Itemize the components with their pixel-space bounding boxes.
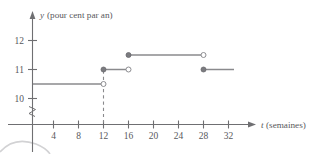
page-edge-artifact bbox=[0, 141, 50, 154]
x-axis-title-variable: t bbox=[261, 120, 264, 130]
closed-endpoint-t16-y11_5 bbox=[126, 53, 131, 58]
y-tick-label-10: 10 bbox=[15, 94, 25, 104]
closed-endpoint-t12-y11 bbox=[101, 67, 106, 72]
y-tick-label-11: 11 bbox=[15, 65, 24, 75]
open-endpoint-t16-y11 bbox=[126, 67, 131, 72]
x-tick-label-16: 16 bbox=[124, 131, 134, 141]
x-axis-title-unit: (semaines) bbox=[266, 120, 306, 130]
y-axis-break-icon bbox=[29, 107, 36, 117]
open-endpoint-t28-y11_5 bbox=[201, 53, 206, 58]
y-axis-arrowhead bbox=[30, 11, 36, 19]
x-tick-label-32: 32 bbox=[224, 131, 234, 141]
x-tick-label-4: 4 bbox=[51, 131, 56, 141]
chart-screenshot: 12 11 10 4 8 12 16 20 24 28 32 y (pour c… bbox=[0, 0, 315, 154]
open-endpoint-t12-y10_5 bbox=[101, 82, 106, 87]
x-tick-label-28: 28 bbox=[199, 131, 209, 141]
x-tick-label-20: 20 bbox=[149, 131, 159, 141]
x-tick-label-8: 8 bbox=[76, 131, 81, 141]
closed-endpoint-t28-y11 bbox=[201, 67, 206, 72]
y-axis-title-variable: y bbox=[39, 10, 45, 20]
x-tick-label-12: 12 bbox=[99, 131, 109, 141]
x-axis-arrowhead bbox=[248, 122, 256, 128]
y-tick-label-12: 12 bbox=[15, 36, 25, 46]
step-function-chart: 12 11 10 4 8 12 16 20 24 28 32 y (pour c… bbox=[0, 0, 315, 154]
y-axis-title-unit: (pour cent par an) bbox=[47, 10, 113, 20]
x-tick-label-24: 24 bbox=[174, 131, 184, 141]
